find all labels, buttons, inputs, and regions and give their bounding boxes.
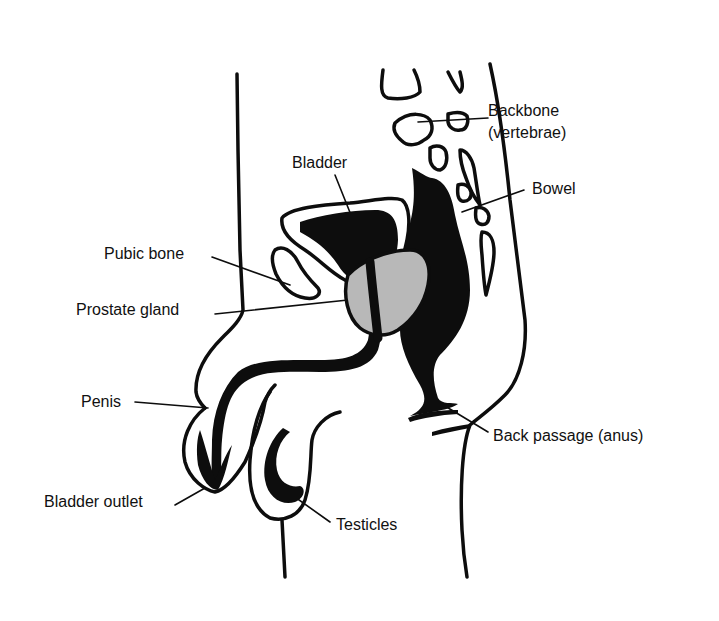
vertebra bbox=[458, 184, 472, 201]
anus-mark bbox=[432, 424, 470, 436]
label-bowel: Bowel bbox=[532, 180, 576, 198]
vertebra bbox=[481, 232, 494, 295]
vertebra bbox=[448, 113, 468, 131]
label-testicles: Testicles bbox=[336, 516, 397, 534]
label-backbone-sub: (vertebrae) bbox=[488, 124, 566, 142]
spine-outline bbox=[448, 72, 462, 92]
vertebra bbox=[394, 114, 432, 144]
label-pubic-bone: Pubic bone bbox=[104, 245, 184, 263]
anus-mark bbox=[408, 410, 458, 422]
testicle bbox=[264, 428, 303, 503]
front-body-outline bbox=[196, 74, 243, 408]
label-bladder-outlet: Bladder outlet bbox=[44, 493, 143, 511]
leg-outline bbox=[282, 520, 285, 577]
label-back-passage: Back passage (anus) bbox=[493, 427, 643, 445]
vertebra bbox=[476, 207, 489, 224]
label-backbone: Backbone bbox=[488, 102, 559, 120]
leader-penis bbox=[135, 402, 208, 408]
anatomy-diagram: Backbone (vertebrae) Bladder Bowel Pubic… bbox=[0, 0, 719, 621]
label-prostate-gland: Prostate gland bbox=[76, 301, 179, 319]
label-bladder: Bladder bbox=[292, 154, 347, 172]
label-penis: Penis bbox=[81, 393, 121, 411]
leader-pubic-bone bbox=[212, 257, 290, 285]
leader-bladder-outlet bbox=[175, 488, 205, 505]
leader-prostate bbox=[215, 300, 348, 314]
vertebra bbox=[430, 146, 447, 170]
